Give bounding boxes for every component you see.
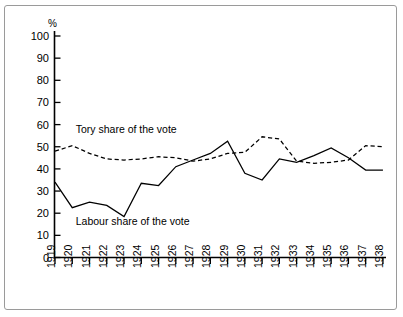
y-tick-label-100: 100 xyxy=(31,30,49,42)
x-tick-label-1934: 1934 xyxy=(304,244,316,268)
x-tick-label-1923: 1923 xyxy=(114,244,126,268)
y-tick-label-20: 20 xyxy=(37,207,49,219)
x-tick-label-1938: 1938 xyxy=(373,244,385,268)
chart-figure: 0102030405060708090100 % 191919201921192… xyxy=(4,5,397,310)
x-tick-label-1919: 1919 xyxy=(45,244,57,268)
x-tick-label-1924: 1924 xyxy=(131,244,143,268)
x-axis-tick-labels: 1919192019211922192319241925192619271928… xyxy=(45,244,385,268)
x-tick-label-1925: 1925 xyxy=(149,244,161,268)
y-tick-label-70: 70 xyxy=(37,96,49,108)
x-tick-label-1928: 1928 xyxy=(200,244,212,268)
y-tick-label-60: 60 xyxy=(37,119,49,131)
y-tick-label-90: 90 xyxy=(37,52,49,64)
x-tick-label-1921: 1921 xyxy=(80,244,92,268)
series-annotation-tory: Tory share of the vote xyxy=(76,123,177,135)
x-tick-label-1929: 1929 xyxy=(218,244,230,268)
x-tick-label-1936: 1936 xyxy=(338,244,350,268)
y-axis-tick-labels: 0102030405060708090100 xyxy=(31,30,49,264)
y-tick-label-80: 80 xyxy=(37,74,49,86)
x-tick-label-1933: 1933 xyxy=(287,244,299,268)
line-chart-canvas: 0102030405060708090100 % 191919201921192… xyxy=(5,6,398,311)
series-annotations: Tory share of the voteLabour share of th… xyxy=(76,123,190,227)
y-tick-label-50: 50 xyxy=(37,141,49,153)
y-tick-label-10: 10 xyxy=(37,229,49,241)
x-tick-label-1935: 1935 xyxy=(321,244,333,268)
y-tick-label-40: 40 xyxy=(37,163,49,175)
x-tick-label-1932: 1932 xyxy=(269,244,281,268)
series-annotation-labour: Labour share of the vote xyxy=(76,215,190,227)
y-axis-tick-marks xyxy=(55,36,61,258)
x-tick-label-1931: 1931 xyxy=(252,244,264,268)
series-line-labour xyxy=(55,141,383,216)
x-tick-label-1920: 1920 xyxy=(62,244,74,268)
x-tick-label-1937: 1937 xyxy=(356,244,368,268)
y-axis-unit-label: % xyxy=(48,18,57,29)
y-tick-label-30: 30 xyxy=(37,185,49,197)
x-tick-label-1930: 1930 xyxy=(235,244,247,268)
x-tick-label-1922: 1922 xyxy=(97,244,109,268)
x-tick-label-1926: 1926 xyxy=(166,244,178,268)
x-tick-label-1927: 1927 xyxy=(183,244,195,268)
